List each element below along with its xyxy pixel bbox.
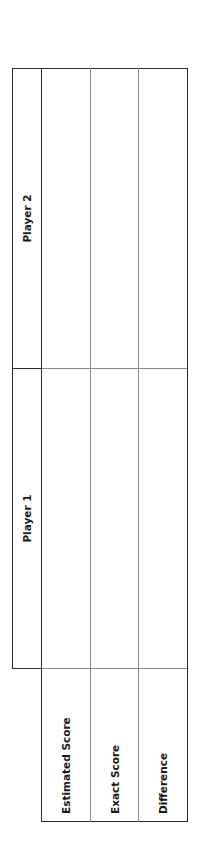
cell-exact-player-2[interactable] (91, 69, 139, 369)
cell-exact-player-1[interactable] (91, 369, 139, 669)
row-label-difference: Difference (139, 669, 188, 822)
table-row-exact-score: Exact Score (91, 69, 139, 822)
row-label-exact-score: Exact Score (91, 669, 139, 822)
row-label-estimated-score: Estimated Score (42, 669, 91, 822)
header-row: Player 1 Player 2 (13, 69, 42, 822)
score-comparison-table: Player 1 Player 2 Estimated Score Exact … (12, 68, 188, 822)
cell-estimated-player-2[interactable] (42, 69, 91, 369)
table-row-difference: Difference (139, 69, 188, 822)
table-row-estimated-score: Estimated Score (42, 69, 91, 822)
corner-cell (13, 669, 42, 822)
column-header-player-1: Player 1 (13, 369, 42, 669)
cell-estimated-player-1[interactable] (42, 369, 91, 669)
cell-difference-player-2[interactable] (139, 69, 188, 369)
column-header-player-2: Player 2 (13, 69, 42, 369)
cell-difference-player-1[interactable] (139, 369, 188, 669)
rotated-table-container: Player 1 Player 2 Estimated Score Exact … (12, 69, 187, 822)
